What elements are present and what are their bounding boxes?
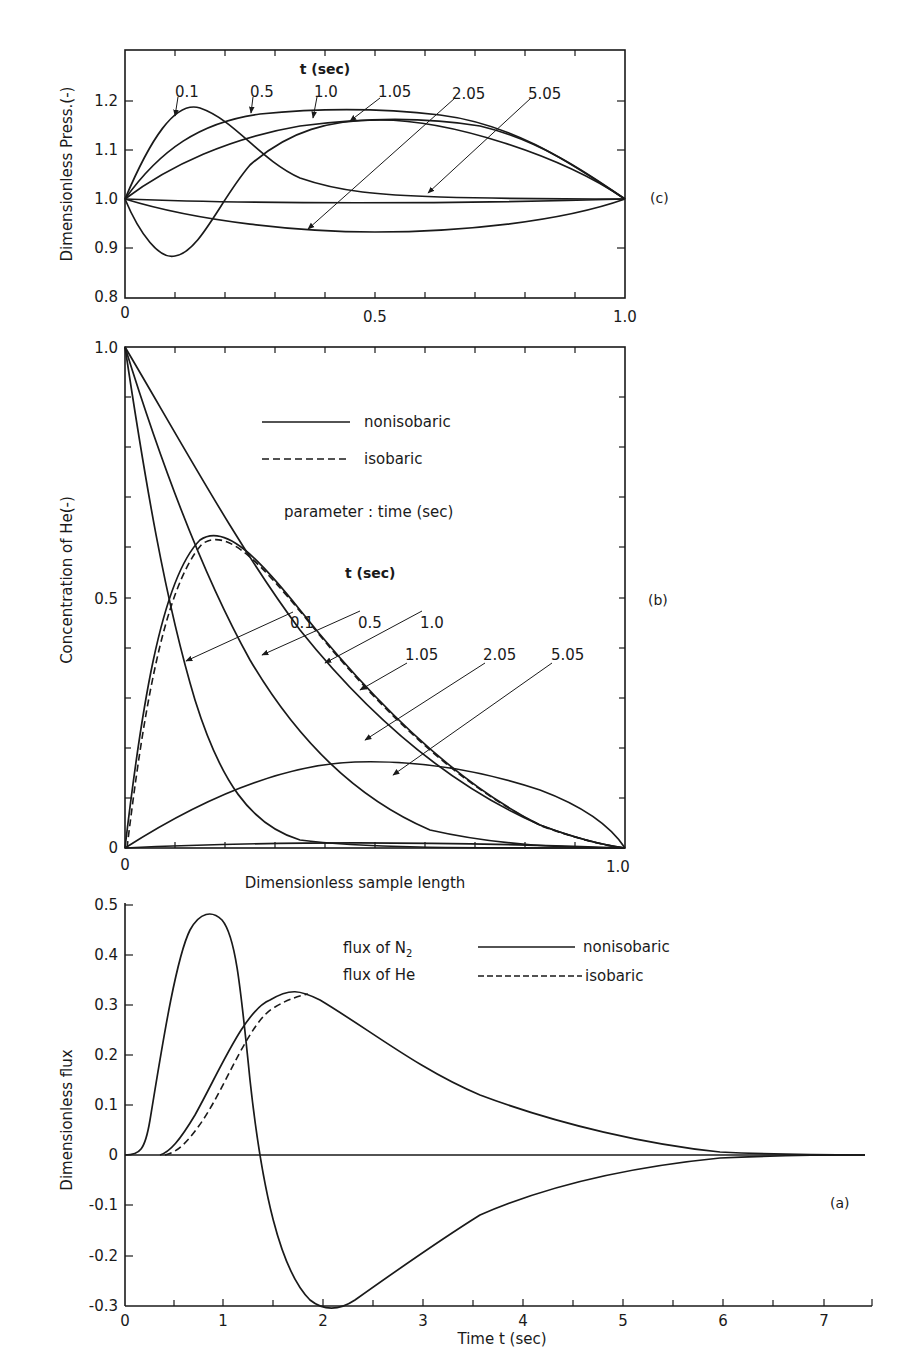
xtick-label: 7: [819, 1312, 829, 1330]
y-axis-label-c: Dimensionless Press.(-): [58, 87, 76, 262]
ytick-label: -0.1: [89, 1196, 118, 1214]
ytick-label: 0: [108, 1146, 118, 1164]
ytick-label: 0: [108, 839, 118, 857]
xtick-label: 2: [318, 1312, 328, 1330]
annotation-c-5.05: 5.05: [528, 85, 561, 103]
annotation-b-5.05: 5.05: [551, 646, 584, 664]
legend-dashed-label-b: isobaric: [364, 450, 422, 468]
ytick-label: 1.2: [94, 92, 118, 110]
ytick-label: 0.8: [94, 288, 118, 306]
ytick-label: 1.0: [94, 190, 118, 208]
annotation-c-1.0: 1.0: [314, 83, 338, 101]
panel-label-b: (b): [648, 592, 668, 608]
xtick-label: 0: [120, 1312, 130, 1330]
xtick-label: 3: [418, 1312, 428, 1330]
xtick-label: 1: [218, 1312, 228, 1330]
curves-c: [125, 107, 625, 256]
legend-solid-label-b: nonisobaric: [364, 413, 451, 431]
legend-he-label: flux of He: [343, 966, 415, 984]
ytick-label: 0.3: [94, 996, 118, 1014]
curves-a: [125, 914, 865, 1308]
annotation-arrows-c: [175, 97, 531, 229]
figure: 1.2 1.1 1.0 0.9 0.8 0 0.5 1.0 Dimensionl…: [0, 0, 909, 1370]
xtick-label: 6: [718, 1312, 728, 1330]
xtick-label: 5: [618, 1312, 628, 1330]
annotation-c-0.5: 0.5: [250, 83, 274, 101]
xtick-label: 0: [120, 856, 130, 874]
note-b: parameter : time (sec): [284, 503, 453, 521]
chart-b: 1.0 0.5 0 0 1.0 Dimensionless sample len…: [58, 339, 668, 892]
y-axis-label-b: Concentration of He(-): [58, 496, 76, 664]
ytick-label: 0.4: [94, 946, 118, 964]
legend-solid-label-a: nonisobaric: [583, 938, 670, 956]
chart-a: 0.5 0.4 0.3 0.2 0.1 0 -0.1 -0.2 -0.3 0 1…: [58, 896, 872, 1348]
xtick-label: 1.0: [606, 858, 630, 876]
ytick-label: 0.5: [94, 896, 118, 914]
legend-title-c: t (sec): [300, 61, 351, 77]
annotation-b-0.1: 0.1: [290, 614, 314, 632]
xtick-label: 0.5: [363, 308, 387, 326]
ytick-label: 0.2: [94, 1046, 118, 1064]
annotation-c-2.05: 2.05: [452, 85, 485, 103]
annotation-b-1.05: 1.05: [405, 646, 438, 664]
ytick-label: 1.0: [94, 339, 118, 357]
ytick-label: 0.1: [94, 1096, 118, 1114]
chart-c: 1.2 1.1 1.0 0.9 0.8 0 0.5 1.0 Dimensionl…: [58, 50, 669, 326]
x-axis-label-b: Dimensionless sample length: [245, 874, 466, 892]
legend-dashed-label-a: isobaric: [585, 967, 643, 985]
ytick-label: 0.5: [94, 590, 118, 608]
xtick-label: 1.0: [613, 308, 637, 326]
annotation-b-0.5: 0.5: [358, 614, 382, 632]
annotation-b-1.0: 1.0: [420, 614, 444, 632]
ytick-label: -0.2: [89, 1247, 118, 1265]
panel-label-c: (c): [650, 190, 669, 206]
legend-n2-label: flux of N2: [343, 939, 412, 959]
legend-title-b: t (sec): [345, 565, 396, 581]
ytick-label: 0.9: [94, 239, 118, 257]
ytick-label: 1.1: [94, 141, 118, 159]
xtick-label: 0: [120, 304, 130, 322]
x-axis-label-a: Time t (sec): [456, 1330, 546, 1348]
panel-label-a: (a): [830, 1195, 850, 1211]
annotation-c-0.1: 0.1: [175, 83, 199, 101]
y-axis-label-a: Dimensionless flux: [58, 1049, 76, 1190]
annotation-arrows-b: [186, 611, 552, 775]
xtick-label: 4: [518, 1312, 528, 1330]
ytick-label: -0.3: [89, 1297, 118, 1315]
annotation-c-1.05: 1.05: [378, 83, 411, 101]
annotation-b-2.05: 2.05: [483, 646, 516, 664]
